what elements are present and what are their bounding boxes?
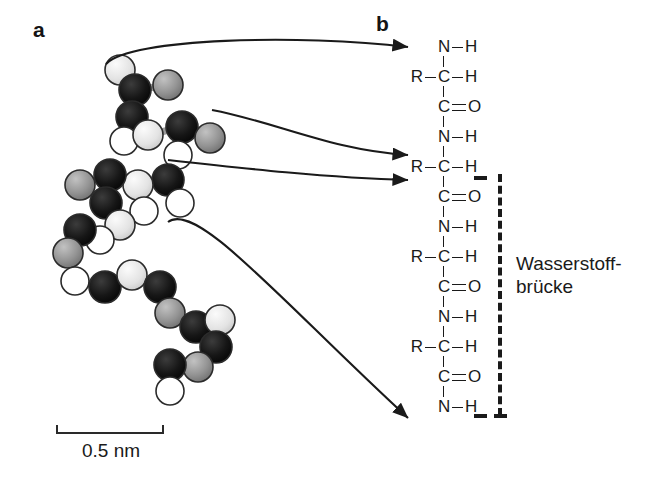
bond-single	[452, 167, 463, 168]
hbond-label-line1: Wasserstoff-	[516, 252, 622, 275]
chain-atom-center: C	[438, 247, 450, 267]
bond-single	[452, 77, 463, 78]
chain-row: CO	[400, 96, 481, 118]
chain-atom-right: H	[465, 37, 477, 57]
chain-atom-left: R	[411, 157, 423, 177]
chain-row: NH	[400, 36, 477, 58]
chain-atom-center: C	[438, 67, 450, 87]
peptide-backbone-chain: NHRCHCONHRCHCONHRCHCONHRCHCONH	[400, 36, 520, 426]
chain-atom-left: R	[411, 337, 423, 357]
chain-atom-center: N	[438, 37, 450, 57]
hbond-dash-bottom-left	[474, 414, 487, 418]
bond-double	[452, 284, 466, 291]
hbond-dashed-line	[498, 174, 502, 416]
chain-atom-center: C	[438, 337, 450, 357]
bond-single	[452, 47, 463, 48]
bond-single	[452, 257, 463, 258]
bond-double	[452, 374, 466, 381]
panel-label-b: b	[376, 12, 389, 36]
molecule-ball-and-stick-model	[20, 35, 280, 455]
chain-row: RCH	[400, 66, 477, 88]
bond-double	[452, 104, 466, 111]
chain-atom-right: H	[465, 247, 477, 267]
chain-atom-center: C	[438, 367, 450, 387]
bond-single	[452, 227, 463, 228]
molecule-atoms	[53, 55, 235, 405]
chain-row: CO	[400, 366, 481, 388]
bond-double	[452, 194, 466, 201]
chain-row: NH	[400, 126, 477, 148]
bond-left	[425, 257, 436, 258]
bond-left	[425, 347, 436, 348]
chain-row: RCH	[400, 336, 477, 358]
chain-atom-right: H	[465, 337, 477, 357]
figure-root: a b	[0, 0, 652, 482]
chain-row: RCH	[400, 246, 477, 268]
bond-left	[425, 167, 436, 168]
scale-bar-line	[56, 432, 164, 434]
chain-atom-right: H	[465, 67, 477, 87]
chain-atom-left: R	[411, 67, 423, 87]
hbond-dash-bottom-right	[494, 414, 507, 418]
chain-atom-center: N	[438, 397, 450, 417]
chain-atom-right: O	[468, 97, 481, 117]
bond-left	[425, 77, 436, 78]
chain-row: NH	[400, 216, 477, 238]
chain-row: NH	[400, 306, 477, 328]
chain-atom-right: O	[468, 187, 481, 207]
hbond-label-line2: brücke	[516, 275, 622, 298]
chain-atom-right: H	[465, 157, 477, 177]
chain-atom-center: C	[438, 277, 450, 297]
bond-single	[452, 137, 463, 138]
chain-atom-right: H	[465, 217, 477, 237]
chain-atom-center: N	[438, 127, 450, 147]
chain-row: RCH	[400, 156, 477, 178]
chain-atom-right: O	[468, 367, 481, 387]
chain-atom-center: C	[438, 97, 450, 117]
bond-single	[452, 317, 463, 318]
chain-atom-center: C	[438, 157, 450, 177]
chain-row: CO	[400, 276, 481, 298]
scale-bar-label: 0.5 nm	[56, 440, 166, 462]
bond-single	[452, 407, 463, 408]
chain-atom-left: R	[411, 247, 423, 267]
hydrogen-bond-label: Wasserstoff- brücke	[516, 252, 622, 298]
chain-atom-center: N	[438, 217, 450, 237]
hbond-dash-top	[474, 176, 487, 180]
chain-row: CO	[400, 186, 481, 208]
chain-atom-right: O	[468, 277, 481, 297]
chain-row: NH	[400, 396, 477, 418]
chain-atom-right: H	[465, 127, 477, 147]
chain-atom-center: C	[438, 187, 450, 207]
scale-bar-cap-right	[162, 425, 164, 434]
bond-single	[452, 347, 463, 348]
chain-atom-right: H	[465, 307, 477, 327]
chain-atom-center: N	[438, 307, 450, 327]
